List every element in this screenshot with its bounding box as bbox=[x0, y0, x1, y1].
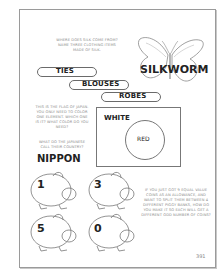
flag-circle: RED bbox=[125, 120, 165, 160]
japan-name-question: WHAT DO THE JAPANESE CALL THEIR COUNTRY? bbox=[36, 140, 88, 150]
silk-item-robes: ROBES bbox=[101, 92, 161, 102]
piggy-question: IF YOU JUST GOT 9 EQUAL VALUE COINS AS A… bbox=[140, 188, 212, 218]
piggy-bank-value: 3 bbox=[94, 178, 102, 191]
silk-item-label: ROBES bbox=[119, 92, 147, 100]
flag-circle-label: RED bbox=[137, 135, 150, 142]
silk-item-label: TIES bbox=[56, 67, 74, 75]
silk-item-label: BLOUSES bbox=[82, 80, 119, 88]
silkworm-answer: SILKWORM bbox=[140, 63, 208, 76]
piggy-bank-value: 5 bbox=[37, 222, 45, 235]
piggy-bank-value: 1 bbox=[37, 178, 45, 191]
flag-background-label: WHITE bbox=[104, 114, 130, 122]
japan-flag-question: THIS IS THE FLAG OF JAPAN. YOU ONLY NEED… bbox=[34, 105, 90, 130]
butterfly-icon bbox=[134, 33, 206, 91]
silk-item-ties: TIES bbox=[37, 67, 97, 77]
silk-question: WHERE DOES SILK COME FROM? NAME THREE CL… bbox=[52, 38, 122, 53]
page-number: 391 bbox=[196, 253, 206, 259]
silk-item-blouses: BLOUSES bbox=[69, 80, 129, 90]
japan-flag: WHITE RED bbox=[96, 107, 181, 167]
piggy-bank-value: 0 bbox=[94, 222, 102, 235]
japan-name-answer: NIPPON bbox=[37, 153, 81, 164]
